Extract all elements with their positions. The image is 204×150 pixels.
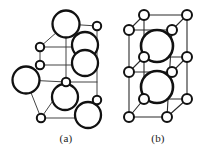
small-atom-sphere bbox=[182, 10, 192, 20]
small-atom-sphere bbox=[167, 67, 177, 77]
large-atom-sphere bbox=[72, 50, 98, 76]
large-atom-sphere bbox=[52, 84, 78, 110]
small-atom-sphere bbox=[139, 52, 149, 62]
small-atom-sphere bbox=[93, 22, 101, 30]
small-atom-sphere bbox=[139, 10, 149, 20]
small-atom-sphere bbox=[36, 43, 44, 51]
small-atom-sphere bbox=[93, 96, 101, 104]
large-atom-sphere bbox=[75, 102, 101, 128]
figure-container: (a) (b) bbox=[0, 0, 204, 150]
small-atom-sphere bbox=[62, 78, 70, 86]
small-atom-sphere bbox=[182, 94, 192, 104]
small-atom-sphere bbox=[162, 112, 172, 122]
crystal-structure-figure: (a) (b) bbox=[0, 0, 204, 150]
small-atom-sphere bbox=[124, 67, 134, 77]
panel-b-caption: (b) bbox=[151, 132, 165, 145]
small-atom-sphere bbox=[139, 94, 149, 104]
large-atom-sphere bbox=[53, 11, 80, 38]
large-atom-sphere bbox=[13, 67, 40, 94]
small-atom-sphere bbox=[182, 52, 192, 62]
small-atom-sphere bbox=[167, 25, 177, 35]
small-atom-sphere bbox=[124, 112, 134, 122]
small-atom-sphere bbox=[37, 114, 45, 122]
small-atom-sphere bbox=[36, 61, 44, 69]
small-atom-sphere bbox=[124, 25, 134, 35]
panel-a-caption: (a) bbox=[60, 132, 73, 145]
